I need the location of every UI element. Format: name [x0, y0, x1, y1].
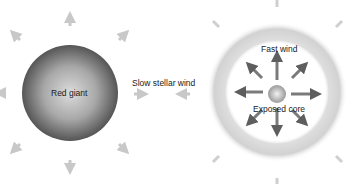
red-giant-label: Red giant — [51, 88, 87, 98]
fast-wind-label: Fast wind — [261, 44, 297, 54]
exposed-core-label: Exposed core — [253, 104, 305, 114]
slow-wind-label: Slow stellar wind — [132, 78, 195, 88]
exposed-core — [268, 85, 286, 103]
